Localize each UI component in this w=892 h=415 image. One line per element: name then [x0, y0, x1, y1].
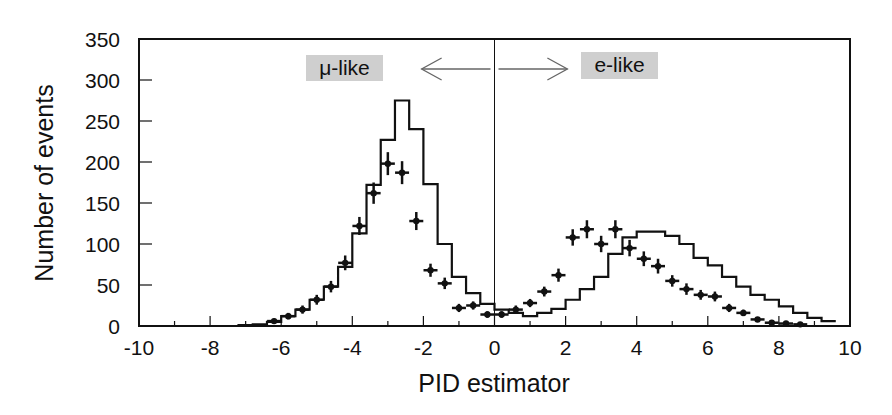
data-point	[566, 229, 580, 245]
x-tick-label: -8	[201, 336, 220, 359]
point-marker	[427, 267, 433, 273]
e-like-label-text: e-like	[594, 53, 644, 76]
point-marker	[655, 263, 661, 269]
point-marker	[271, 318, 277, 324]
point-marker	[555, 272, 561, 278]
data-point	[551, 269, 565, 282]
data-point	[438, 278, 452, 289]
x-tick-label: 2	[560, 336, 572, 359]
point-marker	[726, 305, 732, 311]
data-point	[765, 320, 779, 326]
data-point	[395, 161, 409, 184]
point-marker	[413, 218, 419, 224]
point-marker	[370, 190, 376, 196]
point-marker	[456, 305, 462, 311]
y-tick-label: 0	[108, 315, 120, 338]
point-marker	[356, 223, 362, 229]
data-point	[281, 313, 295, 320]
y-axis-title: Number of events	[30, 84, 58, 281]
point-marker	[683, 286, 689, 292]
data-point	[651, 259, 665, 274]
point-marker	[783, 320, 789, 326]
mc-histogram	[239, 101, 836, 327]
data-point	[679, 283, 693, 294]
data-point	[694, 290, 708, 300]
point-marker	[342, 260, 348, 266]
data-point	[409, 212, 423, 230]
pid-histogram-chart: -10-8-6-4-20246810 050100150200250300350…	[0, 0, 892, 415]
y-axis-ticks: 050100150200250300350	[85, 28, 152, 338]
point-marker	[626, 245, 632, 251]
point-marker	[769, 320, 775, 326]
data-point	[708, 292, 722, 302]
data-point	[466, 301, 480, 309]
y-tick-label: 250	[85, 110, 120, 133]
y-tick-label: 100	[85, 233, 120, 256]
data-point	[623, 240, 637, 256]
point-marker	[513, 306, 519, 312]
data-point	[608, 220, 622, 238]
x-tick-label: 10	[838, 336, 861, 359]
point-marker	[385, 160, 391, 166]
point-marker	[570, 234, 576, 240]
mu-like-label-text: μ-like	[319, 56, 370, 79]
data-point	[594, 236, 608, 252]
data-point	[267, 318, 281, 324]
annotations: μ-likee-like	[306, 39, 658, 326]
point-marker	[299, 306, 305, 312]
point-marker	[641, 256, 647, 262]
data-point	[637, 251, 651, 266]
data-point	[665, 275, 679, 286]
y-tick-label: 300	[85, 69, 120, 92]
data-point	[324, 281, 338, 292]
x-tick-label: -4	[343, 336, 362, 359]
point-marker	[399, 169, 405, 175]
data-point	[296, 306, 310, 314]
point-marker	[527, 300, 533, 306]
point-marker	[669, 278, 675, 284]
point-marker	[498, 311, 504, 317]
x-tick-label: -6	[272, 336, 291, 359]
e-like-label: e-like	[581, 52, 658, 79]
x-axis-ticks: -10-8-6-4-20246810	[124, 316, 862, 359]
point-marker	[598, 241, 604, 247]
point-marker	[285, 313, 291, 319]
x-tick-label: -10	[124, 336, 154, 359]
point-marker	[697, 292, 703, 298]
x-tick-label: 0	[489, 336, 501, 359]
point-marker	[612, 226, 618, 232]
data-point	[537, 287, 551, 297]
point-marker	[541, 288, 547, 294]
point-marker	[754, 316, 760, 322]
point-marker	[484, 311, 490, 317]
data-point	[310, 295, 324, 305]
point-marker	[442, 280, 448, 286]
x-tick-label: -2	[414, 336, 433, 359]
x-tick-label: 8	[773, 336, 785, 359]
point-marker	[584, 226, 590, 232]
point-marker	[328, 283, 334, 289]
point-marker	[314, 297, 320, 303]
data-point	[381, 152, 395, 175]
x-axis-title: PID estimator	[418, 369, 569, 397]
point-marker	[712, 293, 718, 299]
y-tick-label: 200	[85, 151, 120, 174]
y-tick-label: 50	[97, 274, 120, 297]
point-marker	[740, 310, 746, 316]
x-tick-label: 4	[631, 336, 643, 359]
data-point	[722, 304, 736, 312]
y-tick-label: 350	[85, 28, 120, 51]
data-point	[751, 316, 765, 322]
data-point	[424, 264, 438, 277]
point-marker	[470, 302, 476, 308]
data-point	[523, 299, 537, 307]
data-point	[736, 310, 750, 317]
data-point	[452, 304, 466, 312]
mu-like-label: μ-like	[306, 55, 383, 81]
data-point	[495, 311, 509, 318]
mc-step-line	[239, 101, 836, 327]
data-point	[580, 220, 594, 238]
y-tick-label: 150	[85, 192, 120, 215]
data-point	[480, 311, 494, 318]
data-points	[267, 152, 807, 327]
